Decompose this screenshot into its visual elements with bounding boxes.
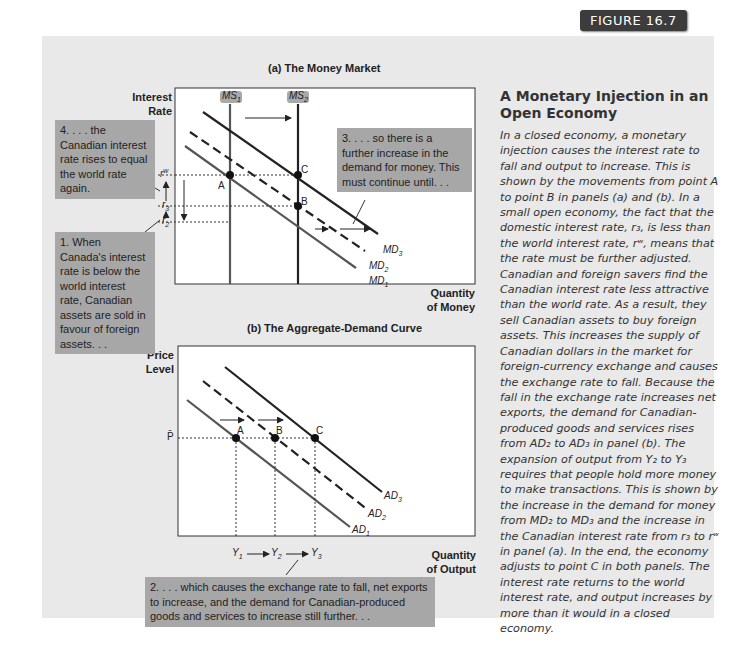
- r3-label: r3: [162, 199, 169, 212]
- ad3-label: AD3: [384, 490, 402, 503]
- callout-2: 2. . . . which causes the exchange rate …: [145, 577, 435, 627]
- callout-4: 4. . . . the Canadian interest rate rise…: [55, 120, 155, 199]
- point-a-label-ad: A: [237, 425, 244, 436]
- r2-label: r2: [162, 215, 169, 228]
- caption-heading: A Monetary Injection in an Open Economy: [500, 88, 720, 122]
- y1-label: Y1: [232, 547, 243, 560]
- ms1-label: MS1: [222, 90, 241, 103]
- callout-1: 1. When Canada's interest rate is below …: [55, 232, 155, 354]
- md3-label: MD3: [383, 244, 402, 257]
- point-b-label-ad: B: [276, 425, 283, 436]
- md2-label: MD2: [369, 260, 388, 273]
- caption-panel: A Monetary Injection in an Open Economy …: [500, 88, 720, 636]
- panel-b-plot: [178, 346, 475, 575]
- point-c-label-ad: C: [316, 425, 323, 436]
- ad1-label: AD1: [352, 524, 370, 537]
- point-a-money: [226, 171, 234, 179]
- point-b-label-money: B: [301, 196, 308, 207]
- caption-body: In a closed economy, a monetary injectio…: [500, 128, 720, 636]
- ad2-label: AD2: [368, 508, 386, 521]
- callout-3: 3. . . . so there is a further increase …: [337, 128, 472, 192]
- md1-label: MD1: [369, 275, 388, 288]
- point-c-label-money: C: [301, 164, 308, 175]
- rw-label: rw: [160, 167, 168, 179]
- y3-label: Y3: [311, 547, 322, 560]
- ms2-label: MS2: [289, 90, 308, 103]
- pbar-label: P̄: [167, 431, 174, 442]
- y2-label: Y2: [271, 547, 282, 560]
- point-a-label-money: A: [218, 180, 225, 191]
